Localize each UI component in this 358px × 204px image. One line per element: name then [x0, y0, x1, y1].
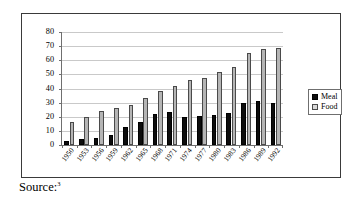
- y-axis-tick-label: 30: [46, 99, 54, 107]
- legend-label-meal: Meal: [321, 93, 337, 101]
- bar-food-1950: [70, 122, 75, 145]
- bar-group: [165, 32, 180, 145]
- legend-item-meal: Meal: [312, 92, 337, 102]
- y-axis-tick-label: 40: [46, 84, 54, 92]
- bar-food-1992: [276, 48, 281, 145]
- bar-group: [180, 32, 195, 145]
- bar-group: [195, 32, 210, 145]
- bar-group: [254, 32, 269, 145]
- legend-item-food: Food: [312, 102, 337, 112]
- source-caption: Source:3: [19, 181, 60, 194]
- bar-food-1968: [158, 91, 163, 145]
- y-axis-tick-label: 80: [46, 28, 54, 36]
- bar-series-container: [62, 32, 283, 145]
- bar-food-1971: [173, 86, 178, 145]
- plot-area: 01020304050607080 1950195319561959196219…: [61, 32, 283, 146]
- bar-food-1986: [247, 53, 252, 145]
- bar-group: [121, 32, 136, 145]
- bar-food-1977: [202, 78, 207, 145]
- bar-food-1983: [232, 67, 237, 145]
- black-square-icon: [312, 94, 318, 100]
- y-axis-tick-label: 10: [46, 127, 54, 135]
- bar-group: [106, 32, 121, 145]
- bar-group: [91, 32, 106, 145]
- chart-legend: Meal Food: [308, 89, 342, 115]
- y-axis-tick-label: 20: [46, 113, 54, 121]
- bar-group: [136, 32, 151, 145]
- bar-group: [62, 32, 77, 145]
- y-axis-tick-label: 0: [50, 141, 54, 149]
- bar-group: [239, 32, 254, 145]
- x-axis-labels: 1950195319561959196219651968197119741977…: [62, 145, 283, 175]
- legend-label-food: Food: [321, 103, 337, 111]
- source-label: Source:: [19, 180, 57, 194]
- bar-food-1962: [129, 105, 134, 145]
- y-axis-tick-label: 60: [46, 56, 54, 64]
- bar-group: [77, 32, 92, 145]
- bar-group: [209, 32, 224, 145]
- bar-food-1989: [261, 49, 266, 145]
- footnote-marker: 3: [57, 180, 60, 187]
- bar-food-1965: [143, 98, 148, 145]
- bar-food-1980: [217, 72, 222, 145]
- chart-screenshot: 01020304050607080 1950195319561959196219…: [0, 0, 358, 204]
- bar-group: [224, 32, 239, 145]
- light-square-icon: [312, 104, 318, 110]
- y-axis-tick-label: 50: [46, 70, 54, 78]
- bar-food-1974: [188, 80, 193, 145]
- chart-frame: 01020304050607080 1950195319561959196219…: [21, 13, 341, 178]
- bar-group: [268, 32, 283, 145]
- y-axis-tick-label: 70: [46, 42, 54, 50]
- bar-group: [150, 32, 165, 145]
